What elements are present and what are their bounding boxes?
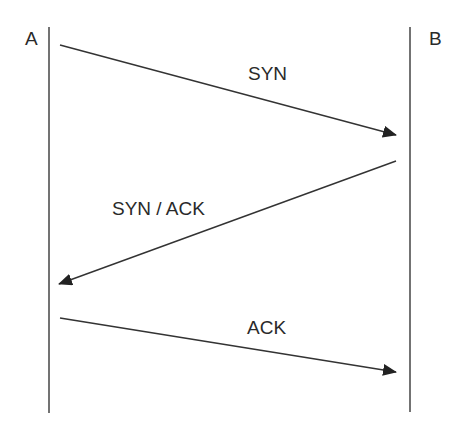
- handshake-diagram: A B SYN SYN / ACK ACK: [0, 0, 462, 430]
- syn-label: SYN: [248, 63, 287, 84]
- ack-arrow: [60, 318, 396, 372]
- syn-arrow: [60, 45, 396, 135]
- ack-label: ACK: [247, 317, 286, 338]
- syn-ack-arrow: [59, 161, 396, 284]
- participant-b-label: B: [429, 28, 442, 49]
- syn-ack-label: SYN / ACK: [112, 198, 205, 219]
- participant-a-label: A: [25, 28, 38, 49]
